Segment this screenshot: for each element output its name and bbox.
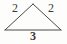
- base-length-label: 3: [30, 30, 36, 42]
- triangle-right-side: [33, 4, 61, 30]
- triangle-figure: 2 2 3: [0, 0, 67, 44]
- left-side-length-label: 2: [12, 2, 18, 14]
- right-side-length-label: 2: [48, 2, 54, 14]
- triangle-left-side: [5, 4, 33, 30]
